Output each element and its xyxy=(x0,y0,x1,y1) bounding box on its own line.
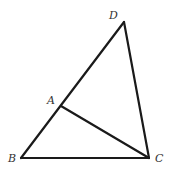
segment-BD xyxy=(21,22,124,158)
segment-AC xyxy=(61,106,149,158)
segment-DC xyxy=(124,22,149,158)
geometry-diagram: D A B C xyxy=(0,0,176,174)
label-C: C xyxy=(155,152,164,165)
label-B: B xyxy=(7,152,16,165)
label-A: A xyxy=(46,94,55,107)
vertex-labels: D A B C xyxy=(7,9,164,165)
label-D: D xyxy=(108,9,118,22)
segments xyxy=(21,22,149,158)
